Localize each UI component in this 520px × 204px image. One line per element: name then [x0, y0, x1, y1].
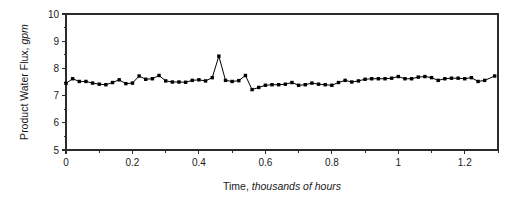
data-point [397, 75, 400, 78]
data-point [403, 77, 406, 80]
data-point [463, 77, 466, 80]
data-point [244, 74, 247, 77]
data-point [456, 76, 459, 79]
data-point [91, 81, 94, 84]
product-water-flux-chart: 5678910 00.20.40.60.811.2 Time, thousand… [0, 0, 520, 204]
data-point [264, 84, 267, 87]
data-point [104, 83, 107, 86]
x-tick-label-1: 1 [396, 157, 402, 168]
data-point [157, 74, 160, 77]
data-point [230, 80, 233, 83]
data-point [390, 76, 393, 79]
x-tick-label-0.2: 0.2 [126, 157, 140, 168]
data-point [357, 79, 360, 82]
data-point [184, 81, 187, 84]
data-point [204, 79, 207, 82]
data-point [98, 82, 101, 85]
data-point [224, 79, 227, 82]
data-point [277, 83, 280, 86]
chart-background [0, 0, 520, 204]
data-point [383, 77, 386, 80]
data-point [257, 86, 260, 89]
data-point [297, 84, 300, 87]
data-point [330, 84, 333, 87]
data-point [177, 80, 180, 83]
data-point [370, 77, 373, 80]
x-tick-label-0.8: 0.8 [325, 157, 339, 168]
y-tick-label-9: 9 [53, 36, 59, 47]
data-point [423, 75, 426, 78]
y-axis-title: Product Water Flux, gpm [18, 24, 30, 140]
data-point [137, 74, 140, 77]
data-point [476, 80, 479, 83]
data-point [64, 82, 67, 85]
data-point [270, 83, 273, 86]
data-point [350, 80, 353, 83]
data-point [191, 79, 194, 82]
data-point [111, 81, 114, 84]
data-point [217, 54, 220, 57]
y-tick-label-7: 7 [53, 90, 59, 101]
y-tick-label-6: 6 [53, 117, 59, 128]
data-point [237, 79, 240, 82]
data-point [417, 75, 420, 78]
data-point [450, 76, 453, 79]
data-point [470, 76, 473, 79]
data-point [144, 78, 147, 81]
data-point [304, 83, 307, 86]
data-point [443, 77, 446, 80]
data-point [436, 79, 439, 82]
data-point [284, 82, 287, 85]
x-tick-label-1.2: 1.2 [458, 157, 472, 168]
data-point [78, 80, 81, 83]
data-point [377, 77, 380, 80]
x-axis-title: Time, thousands of hours [223, 180, 342, 192]
data-point [131, 81, 134, 84]
data-point [324, 83, 327, 86]
y-tick-label-5: 5 [53, 145, 59, 156]
data-point [337, 81, 340, 84]
data-point [363, 78, 366, 81]
data-point [493, 74, 496, 77]
data-point [290, 81, 293, 84]
data-point [164, 79, 167, 82]
data-point [430, 76, 433, 79]
data-point [197, 78, 200, 81]
data-point [124, 82, 127, 85]
x-tick-label-0: 0 [63, 157, 69, 168]
data-point [151, 77, 154, 80]
x-tick-label-0.4: 0.4 [192, 157, 206, 168]
y-tick-label-10: 10 [48, 9, 60, 20]
data-point [171, 80, 174, 83]
figure-container: 5678910 00.20.40.60.811.2 Time, thousand… [0, 0, 520, 204]
y-tick-label-8: 8 [53, 63, 59, 74]
data-point [317, 82, 320, 85]
data-point [343, 79, 346, 82]
data-point [84, 80, 87, 83]
x-tick-label-0.6: 0.6 [258, 157, 272, 168]
data-point [310, 81, 313, 84]
data-point [117, 78, 120, 81]
data-point [410, 77, 413, 80]
data-point [71, 77, 74, 80]
data-point [211, 76, 214, 79]
data-point [483, 79, 486, 82]
data-point [250, 88, 253, 91]
